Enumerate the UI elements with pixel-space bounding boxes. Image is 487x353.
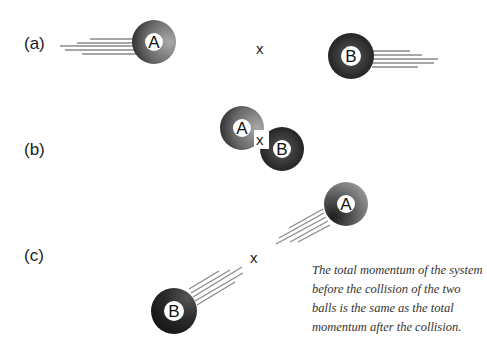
ball-a-collision-label: A: [236, 119, 248, 138]
ball-a-after: A: [324, 182, 368, 226]
motion-lines-a-after: [276, 209, 330, 244]
ball-a: A: [132, 20, 176, 64]
ball-b-after: B: [151, 288, 197, 334]
center-of-mass-mark-c: x: [250, 249, 258, 266]
ball-a-label: A: [148, 33, 160, 52]
motion-lines-b: [372, 51, 438, 67]
ball-b-label: B: [345, 47, 356, 66]
center-of-mass-mark-b: x: [256, 131, 264, 148]
panel-label-c: (c): [24, 246, 44, 265]
ball-b: B: [328, 33, 374, 79]
panel-label-a: (a): [24, 34, 45, 53]
center-of-mass-mark-a: x: [256, 40, 264, 57]
ball-b-after-label: B: [168, 302, 179, 321]
panel-label-b: (b): [24, 140, 45, 159]
panel-a: (a) A x: [24, 20, 438, 79]
motion-lines-a: [60, 39, 140, 54]
panel-b: (b) A B x: [24, 106, 304, 171]
ball-a-after-label: A: [340, 195, 352, 214]
motion-lines-b-after: [189, 267, 243, 305]
momentum-diagram: (a) A x: [0, 0, 487, 353]
ball-b-collision-label: B: [276, 140, 287, 159]
caption: The total momentum of the system before …: [312, 261, 487, 337]
